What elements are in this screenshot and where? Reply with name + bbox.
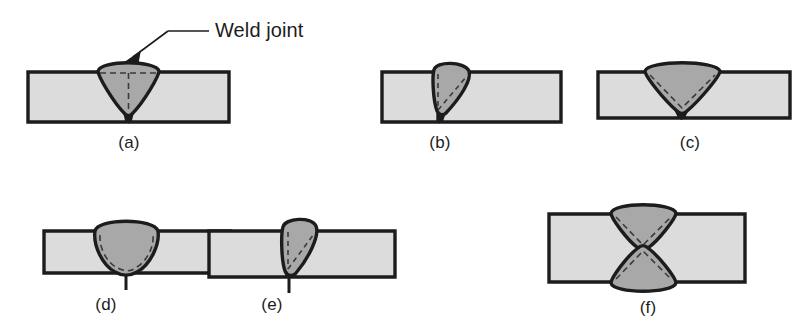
panel-b [378, 58, 568, 136]
panel-label-f: (f) [608, 298, 688, 318]
panel-label-d: (d) [66, 295, 146, 315]
panel-f [545, 196, 760, 306]
panel-label-c: (c) [650, 133, 730, 153]
panel-c [594, 58, 799, 136]
weld-joint-figure: Weld joint (a) [0, 0, 806, 335]
panel-a [24, 58, 234, 136]
panel-label-b: (b) [400, 133, 480, 153]
panel-label-a: (a) [89, 133, 169, 153]
panel-e [205, 215, 405, 295]
weld-joint-callout-label: Weld joint [215, 19, 303, 42]
panel-label-e: (e) [232, 295, 312, 315]
